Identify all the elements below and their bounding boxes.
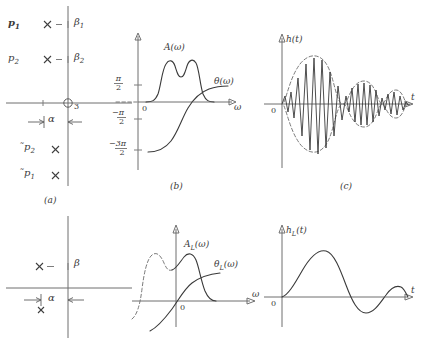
pole-p2-conjugate-label: ̃p2 [24, 141, 35, 155]
x-axis-label-c: t [411, 92, 415, 102]
pole-p1-conjugate-marker [52, 172, 59, 179]
magnitude-curve-label: A(ω) [164, 42, 185, 52]
panel-impulse-response-lowpass-equivalent: hL(t) 0 t [258, 215, 423, 337]
origin-label-c: 0 [271, 106, 276, 115]
phase-curve [148, 86, 228, 152]
origin-label-b: 0 [142, 104, 147, 113]
pole-p1-marker [44, 21, 68, 28]
pole-p1-label: p1 [8, 17, 20, 31]
beta-label-lp: β [74, 257, 80, 268]
panel-impulse-response-bandpass: h(t) 0 t [258, 26, 423, 178]
panel-pole-plot-lowpass-equivalent: β α [0, 212, 140, 342]
pole-beta-marker [36, 263, 68, 270]
y-tick-label-neg-3pi-over-2: −3π 2 [108, 140, 127, 157]
phase-curve-lp [150, 273, 220, 331]
magnitude-curve-label-lp: AL(ω) [184, 239, 209, 252]
phase-curve-label: θ(ω) [214, 76, 234, 86]
y-axis-label-c-lp: hL(t) [286, 225, 307, 238]
y-tick-label-pi-over-2: π 2 [114, 75, 123, 92]
magnitude-curve-mirrored [132, 254, 172, 319]
alpha-label-lp: α [48, 292, 55, 303]
caption-c: (c) [340, 181, 352, 191]
alpha-label: α [48, 113, 55, 124]
pole-p2-marker [44, 56, 68, 63]
impulse-response-curve-lp [282, 251, 408, 313]
origin-label-c-lp: 0 [271, 299, 276, 308]
caption-b: (b) [170, 181, 183, 191]
pole-p2-label: p2 [8, 52, 19, 66]
pole-p1-conjugate-label: ̃p1 [24, 167, 35, 181]
magnitude-curve-lp [172, 254, 216, 301]
panel-frequency-response-bandpass: π 2 0 −π 2 −3π 2 A(ω) θ(ω) ω [108, 28, 248, 178]
pole-beta-conjugate-marker [38, 307, 44, 313]
origin-label-lp: 0 [180, 303, 185, 312]
origin-label: 3 [74, 102, 79, 111]
magnitude-curve [146, 60, 214, 102]
panel-frequency-response-lowpass-equivalent: AL(ω) θL(ω) 0 ω [128, 215, 263, 337]
y-tick-label-neg-pi-over-2: −π 2 [110, 109, 126, 126]
x-axis-label-c-lp: t [411, 285, 415, 295]
y-axis-label-c: h(t) [286, 34, 302, 44]
phase-curve-label-lp: θL(ω) [214, 259, 238, 272]
x-axis-label-b: ω [234, 102, 241, 112]
alpha-dimension [28, 116, 82, 128]
pole-p2-conjugate-marker [52, 146, 59, 153]
caption-a: (a) [44, 195, 56, 205]
beta1-label: β1 [74, 16, 84, 30]
beta2-label: β2 [74, 51, 84, 65]
